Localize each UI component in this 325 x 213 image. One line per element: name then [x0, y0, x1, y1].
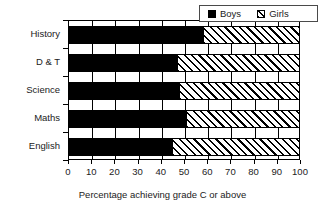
x-axis-tick — [254, 160, 255, 164]
bar-segment-girls — [180, 82, 299, 100]
bar-segment-girls — [204, 26, 299, 44]
x-axis-tick-label: 10 — [86, 166, 97, 177]
x-axis-tick — [138, 160, 139, 164]
y-axis-tick — [63, 76, 68, 77]
chart-legend: Boys Girls — [199, 5, 318, 22]
x-axis-tick — [207, 160, 208, 164]
bar-row — [69, 54, 299, 72]
x-axis-tick-label: 40 — [156, 166, 167, 177]
bar-segment-girls — [173, 138, 299, 156]
bar-segment-boys — [69, 26, 204, 44]
x-axis-tick — [230, 160, 231, 164]
x-axis-tick-label: 100 — [292, 166, 308, 177]
x-axis-tick — [300, 160, 301, 164]
bar-row — [69, 26, 299, 44]
bar-segment-boys — [69, 138, 173, 156]
x-axis-tick — [91, 160, 92, 164]
plot-inner — [69, 21, 299, 159]
x-axis-tick — [68, 160, 69, 164]
y-axis-labels: EnglishMathsScienceD & THistory — [0, 20, 64, 160]
y-axis-label-history: History — [30, 29, 60, 39]
bar-segment-boys — [69, 54, 178, 72]
x-axis-tick-label: 30 — [132, 166, 143, 177]
y-axis-tick — [63, 132, 68, 133]
bar-row — [69, 138, 299, 156]
y-axis-label-science: Science — [26, 85, 60, 95]
bar-segment-girls — [187, 110, 299, 128]
x-axis-tick — [161, 160, 162, 164]
x-axis-tick — [277, 160, 278, 164]
legend-item-girls: Girls — [257, 8, 289, 19]
legend-swatch-girls-icon — [257, 10, 265, 18]
y-axis-label-english: English — [29, 141, 60, 151]
y-axis-label-d-t: D & T — [36, 57, 60, 67]
plot-area — [68, 20, 300, 160]
y-axis-label-maths: Maths — [34, 113, 60, 123]
legend-label-girls: Girls — [269, 8, 289, 19]
x-axis-tick-label: 60 — [202, 166, 213, 177]
y-axis-tick — [63, 48, 68, 49]
bar-segment-boys — [69, 82, 180, 100]
legend-item-boys: Boys — [208, 8, 241, 19]
legend-swatch-boys-icon — [208, 10, 216, 18]
x-axis-tick-label: 50 — [179, 166, 190, 177]
y-axis-tick — [63, 160, 68, 161]
x-axis-tick-label: 80 — [248, 166, 259, 177]
x-axis-tick — [114, 160, 115, 164]
bar-row — [69, 82, 299, 100]
x-axis-tick-label: 20 — [109, 166, 120, 177]
y-axis-tick — [63, 104, 68, 105]
x-axis-tick-label: 0 — [65, 166, 70, 177]
bar-chart: EnglishMathsScienceD & THistory 01020304… — [0, 0, 325, 213]
bar-segment-boys — [69, 110, 187, 128]
x-axis-tick-label: 90 — [272, 166, 283, 177]
y-axis-tick — [63, 20, 68, 21]
x-axis-tick-label: 70 — [225, 166, 236, 177]
x-axis-tick — [184, 160, 185, 164]
bar-row — [69, 110, 299, 128]
bar-segment-girls — [178, 54, 299, 72]
x-axis-title: Percentage achieving grade C or above — [0, 189, 325, 200]
legend-label-boys: Boys — [220, 8, 241, 19]
